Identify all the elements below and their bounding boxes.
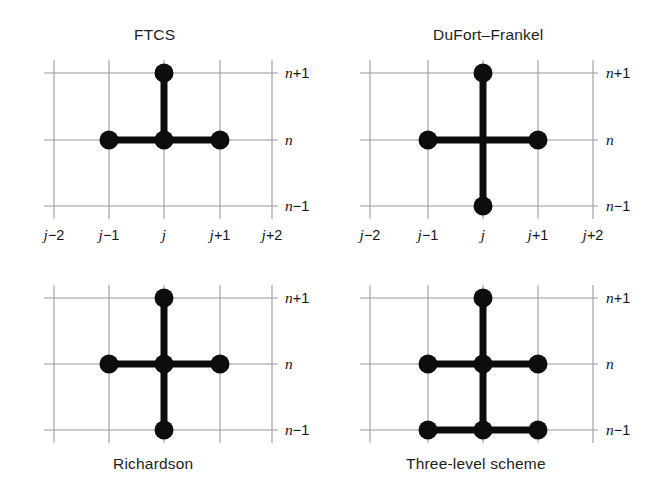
- stencil-node: [155, 289, 174, 308]
- panel-title-ftcs: FTCS: [134, 26, 175, 44]
- y-tick-ftcs-nm1: n−1: [285, 197, 309, 215]
- y-tick-ftcs-n: n: [285, 131, 293, 149]
- y-tick-threelevel-np1: n+1: [606, 289, 630, 307]
- stencil-node: [474, 355, 493, 374]
- stencil-node: [155, 355, 174, 374]
- y-tick-richardson-np1: n+1: [285, 289, 309, 307]
- x-tick-dufort-jp2: j+2: [569, 226, 617, 244]
- stencil-node: [419, 355, 438, 374]
- stencil-node: [100, 355, 119, 374]
- panel-three-level-scheme-stencil: [419, 289, 548, 440]
- x-tick-ftcs-j: j: [140, 226, 188, 244]
- stencil-node: [211, 355, 230, 374]
- panel-dufort-frankel-stencil: [419, 64, 548, 216]
- stencil-node: [100, 131, 119, 150]
- stencil-node: [529, 421, 548, 440]
- y-tick-richardson-n: n: [285, 355, 293, 373]
- stencil-node: [155, 64, 174, 83]
- panel-ftcs-stencil: [100, 64, 230, 150]
- x-tick-dufort-jm2: j−2: [346, 226, 394, 244]
- stencil-figure: FTCS DuFort–Frankel Richardson Three-lev…: [0, 0, 647, 488]
- panel-caption-richardson: Richardson: [113, 455, 193, 473]
- y-tick-dufort-nm1: n−1: [606, 197, 630, 215]
- stencil-node: [155, 131, 174, 150]
- stencil-node: [474, 421, 493, 440]
- y-tick-ftcs-np1: n+1: [285, 64, 309, 82]
- panel-title-dufort-frankel: DuFort–Frankel: [433, 26, 543, 44]
- y-tick-richardson-nm1: n−1: [285, 421, 309, 439]
- stencil-node: [419, 131, 438, 150]
- y-tick-dufort-n: n: [606, 131, 614, 149]
- x-tick-dufort-jp1: j+1: [514, 226, 562, 244]
- panel-caption-three-level-scheme: Three-level scheme: [406, 455, 546, 473]
- y-tick-threelevel-nm1: n−1: [606, 421, 630, 439]
- stencil-node: [474, 197, 493, 216]
- stencil-node: [474, 64, 493, 83]
- stencil-node: [211, 131, 230, 150]
- stencil-node: [529, 131, 548, 150]
- y-tick-threelevel-n: n: [606, 355, 614, 373]
- x-tick-dufort-jm1: j−1: [404, 226, 452, 244]
- stencil-diagram-canvas: [0, 0, 647, 488]
- stencil-node: [529, 355, 548, 374]
- stencil-node: [155, 421, 174, 440]
- x-tick-ftcs-jm2: j−2: [30, 226, 78, 244]
- panel-richardson-stencil: [100, 289, 230, 440]
- x-tick-ftcs-jm1: j−1: [85, 226, 133, 244]
- stencil-node: [419, 421, 438, 440]
- x-tick-ftcs-jp1: j+1: [196, 226, 244, 244]
- x-tick-ftcs-jp2: j+2: [248, 226, 296, 244]
- stencil-node: [474, 289, 493, 308]
- x-tick-dufort-j: j: [459, 226, 507, 244]
- y-tick-dufort-np1: n+1: [606, 64, 630, 82]
